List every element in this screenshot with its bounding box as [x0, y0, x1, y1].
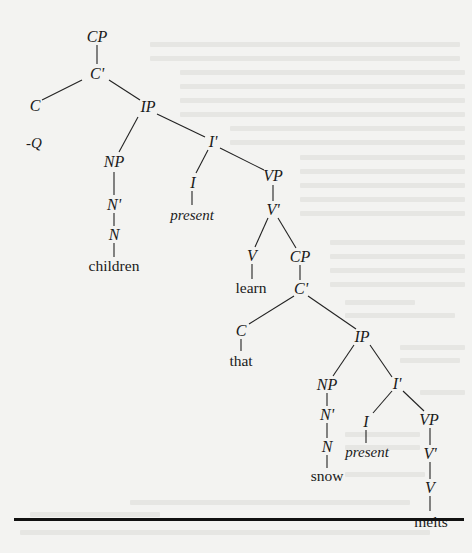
terminal-word-children: children — [89, 258, 140, 274]
tree-branch — [278, 218, 296, 248]
tree-node-present1: present — [170, 208, 214, 223]
tree-node-ip1: IP — [140, 99, 155, 115]
tree-node-q: -Q — [26, 136, 42, 151]
tree-node-c2bar: C' — [294, 281, 308, 297]
horizontal-rule — [14, 518, 464, 521]
tree-branch — [42, 80, 82, 100]
tree-node-c1: C — [30, 98, 41, 114]
terminal-word-snow: snow — [311, 468, 344, 484]
tree-node-c1bar: C' — [90, 66, 104, 82]
tree-branch — [119, 117, 138, 152]
tree-branch — [196, 150, 208, 173]
tree-node-cp2: CP — [290, 249, 310, 265]
tree-branch — [220, 148, 264, 170]
tree-branch — [308, 296, 356, 329]
tree-node-c2: C — [236, 323, 247, 339]
tree-node-n2: N — [322, 439, 333, 455]
tree-node-i1bar: I' — [209, 134, 218, 150]
tree-node-v1: V — [247, 248, 257, 264]
terminal-word-melts: melts — [414, 514, 448, 530]
tree-branch — [373, 391, 392, 413]
terminal-word-that: that — [229, 353, 252, 369]
tree-node-i2: I — [363, 414, 368, 430]
terminal-word-learn: learn — [236, 280, 267, 296]
tree-node-v2bar: V' — [423, 446, 436, 462]
tree-node-v2: V — [425, 480, 435, 496]
tree-node-i1: I — [190, 175, 195, 191]
tree-branch — [109, 80, 140, 100]
tree-node-cp1: CP — [87, 29, 107, 45]
tree-node-vp2: VP — [419, 412, 439, 428]
tree-branch — [370, 345, 392, 377]
tree-node-v1bar: V' — [266, 202, 279, 218]
tree-node-n1: N — [109, 227, 120, 243]
tree-node-np2: NP — [317, 377, 337, 393]
tree-node-np1: NP — [104, 154, 124, 170]
tree-branch — [333, 345, 354, 376]
tree-branches — [0, 0, 472, 553]
tree-node-n1bar: N' — [107, 197, 121, 213]
tree-branch — [255, 218, 268, 247]
tree-node-present2: present — [345, 445, 389, 460]
tree-node-vp1: VP — [263, 168, 283, 184]
tree-node-ip2: IP — [354, 329, 369, 345]
tree-node-i2bar: I' — [393, 376, 402, 392]
tree-branch — [249, 296, 294, 324]
tree-branch — [157, 114, 205, 137]
tree-node-n2bar: N' — [320, 407, 334, 423]
tree-branch — [403, 391, 424, 411]
